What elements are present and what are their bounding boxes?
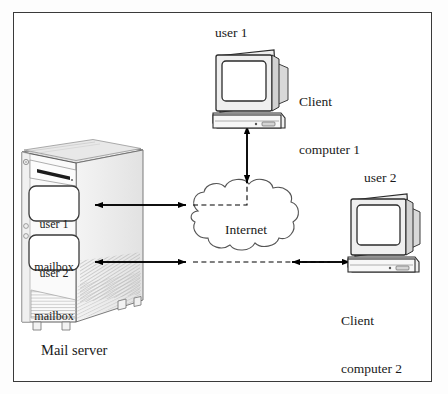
mailbox-label-user2: user 2 mailbox (31, 238, 77, 351)
mail-server-caption: Mail server (41, 342, 107, 359)
client-computer-1-caption: Client computer 1 (299, 62, 360, 189)
internet-cloud-graphic (191, 179, 298, 250)
user1-label: user 1 (215, 25, 248, 41)
client-computer-2-graphic (348, 194, 420, 272)
client-computer-2-caption: Client computer 2 (341, 281, 402, 394)
cut-off-caption (16, 385, 316, 394)
client-computer-1-graphic (213, 50, 288, 128)
internet-label: Internet (206, 222, 286, 238)
user2-label: user 2 (364, 170, 397, 186)
figure-canvas: user 1 mailbox user 2 mailbox Mail serve… (0, 0, 448, 394)
